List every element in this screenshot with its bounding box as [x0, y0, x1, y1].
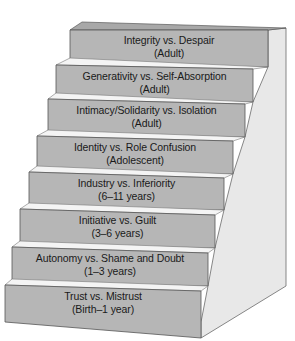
step-title: Autonomy vs. Shame and Doubt [36, 252, 184, 264]
step-title: Industry vs. Inferiority [78, 177, 175, 189]
step-age: (Adult) [48, 117, 245, 130]
step-age: (Adult) [70, 47, 268, 60]
step-age: (6–11 years) [29, 190, 224, 203]
step-label-identity: Identity vs. Role Confusion (Adolescent) [37, 141, 233, 167]
step-label-integrity: Integrity vs. Despair (Adult) [70, 34, 268, 60]
step-title: Initiative vs. Guilt [79, 214, 156, 226]
step-label-intimacy: Intimacy/Solidarity vs. Isolation (Adult… [48, 104, 245, 130]
step-label-trust: Trust vs. Mistrust (Birth–1 year) [5, 290, 201, 316]
step-age: (1–3 years) [12, 265, 208, 278]
step-age: (Adolescent) [37, 154, 233, 167]
step-title: Generativity vs. Self-Absorption [83, 70, 227, 82]
step-title: Intimacy/Solidarity vs. Isolation [76, 104, 216, 116]
step-age: (3–6 years) [20, 227, 215, 240]
step-label-industry: Industry vs. Inferiority (6–11 years) [29, 177, 224, 203]
step-age: (Birth–1 year) [5, 303, 201, 316]
step-title: Identity vs. Role Confusion [74, 141, 196, 153]
step-label-autonomy: Autonomy vs. Shame and Doubt (1–3 years) [12, 252, 208, 278]
step-title: Trust vs. Mistrust [64, 290, 142, 302]
step-label-initiative: Initiative vs. Guilt (3–6 years) [20, 214, 215, 240]
step-label-generativity: Generativity vs. Self-Absorption (Adult) [56, 70, 253, 96]
step-age: (Adult) [56, 83, 253, 96]
step-title: Integrity vs. Despair [124, 34, 215, 46]
top-tread [70, 22, 286, 30]
